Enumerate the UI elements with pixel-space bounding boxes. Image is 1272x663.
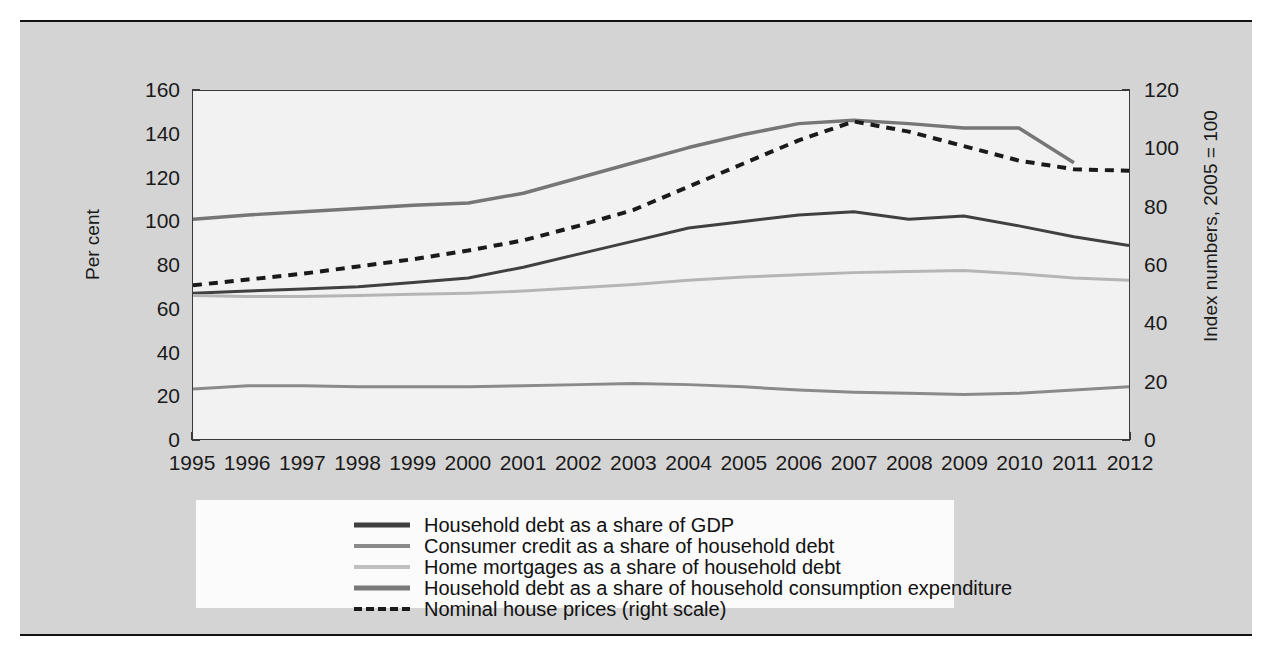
left-tick-label: 80 — [110, 254, 180, 275]
legend: Household debt as a share of GDPConsumer… — [196, 500, 954, 608]
series-line-2 — [193, 384, 1129, 395]
x-tick-label: 2011 — [1045, 452, 1105, 473]
plot-area — [192, 90, 1130, 440]
legend-swatch-icon — [354, 581, 410, 595]
left-axis-title: Per cent — [82, 209, 104, 280]
legend-item[interactable]: Consumer credit as a share of household … — [354, 535, 834, 557]
x-tick-label: 2007 — [824, 452, 884, 473]
legend-label: Consumer credit as a share of household … — [424, 536, 834, 556]
x-tick-label: 2005 — [714, 452, 774, 473]
x-tick-label: 1999 — [383, 452, 443, 473]
x-tick-label: 2008 — [879, 452, 939, 473]
left-tick-label: 140 — [110, 123, 180, 144]
left-tick-label: 0 — [110, 429, 180, 450]
legend-item[interactable]: Home mortgages as a share of household d… — [354, 556, 841, 578]
right-tick-label: 100 — [1144, 137, 1214, 158]
x-tick-label: 1998 — [328, 452, 388, 473]
x-tick-label: 2003 — [603, 452, 663, 473]
left-tick-label: 100 — [110, 210, 180, 231]
legend-swatch-icon — [354, 518, 410, 532]
x-tick-label: 2001 — [493, 452, 553, 473]
legend-swatch-icon — [354, 602, 410, 616]
plot-lines — [193, 91, 1129, 439]
x-tick-label: 2012 — [1100, 452, 1160, 473]
left-tick-label: 60 — [110, 298, 180, 319]
legend-swatch-icon — [354, 560, 410, 574]
legend-label: Nominal house prices (right scale) — [424, 599, 726, 619]
legend-label: Household debt as a share of household c… — [424, 578, 1012, 598]
right-tick-label: 120 — [1144, 79, 1214, 100]
x-tick-label: 2006 — [769, 452, 829, 473]
x-tick-label: 1996 — [217, 452, 277, 473]
legend-item[interactable]: Nominal house prices (right scale) — [354, 598, 726, 620]
right-tick-label: 60 — [1144, 254, 1214, 275]
x-tick-label: 2004 — [659, 452, 719, 473]
left-tick-label: 40 — [110, 342, 180, 363]
left-tick-label: 160 — [110, 79, 180, 100]
right-tick-label: 20 — [1144, 371, 1214, 392]
legend-item[interactable]: Household debt as a share of GDP — [354, 514, 734, 536]
x-tick-label: 1997 — [272, 452, 332, 473]
legend-label: Household debt as a share of GDP — [424, 515, 734, 535]
left-tick-label: 120 — [110, 167, 180, 188]
right-tick-label: 80 — [1144, 196, 1214, 217]
legend-item[interactable]: Household debt as a share of household c… — [354, 577, 1012, 599]
x-tick-label: 2000 — [438, 452, 498, 473]
legend-swatch-icon — [354, 539, 410, 553]
x-tick-label: 2009 — [934, 452, 994, 473]
x-tick-label: 2002 — [548, 452, 608, 473]
x-tick-label: 2010 — [990, 452, 1050, 473]
series-line-5 — [193, 121, 1129, 285]
legend-label: Home mortgages as a share of household d… — [424, 557, 841, 577]
figure-page: Per cent Index numbers, 2005 = 100 02040… — [0, 0, 1272, 663]
figure-panel: Per cent Index numbers, 2005 = 100 02040… — [20, 22, 1252, 634]
right-tick-label: 0 — [1144, 429, 1214, 450]
series-line-4 — [193, 120, 1074, 219]
x-tick-label: 1995 — [162, 452, 222, 473]
right-tick-label: 40 — [1144, 312, 1214, 333]
series-line-3 — [193, 270, 1129, 296]
left-tick-label: 20 — [110, 385, 180, 406]
